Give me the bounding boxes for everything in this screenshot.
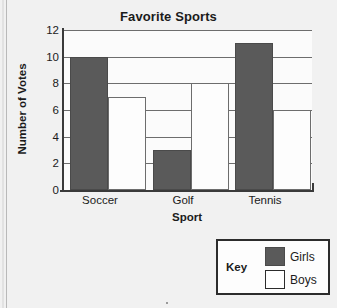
legend-label-boys: Boys — [290, 273, 317, 287]
y-tick-label-2: 2 — [33, 157, 59, 169]
y-tick-label-4: 4 — [33, 131, 59, 143]
bar-tennis-girls — [235, 43, 273, 190]
legend-title: Key — [226, 261, 247, 273]
legend-swatch-boys-icon — [265, 270, 285, 289]
page-edge-shadow — [2, 0, 4, 308]
legend-entry-boys: Boys — [265, 270, 317, 289]
legend-swatch-girls-icon — [265, 247, 285, 266]
x-axis-endcap — [312, 183, 314, 191]
bar-tennis-boys — [273, 110, 311, 190]
legend-key-box: Key Girls Boys — [216, 239, 330, 295]
legend-entry-girls: Girls — [265, 247, 315, 266]
y-tick-label-10: 10 — [33, 51, 59, 63]
y-tick-label-6: 6 — [33, 104, 59, 116]
x-tick-label-golf: Golf — [143, 194, 223, 206]
bar-golf-girls — [153, 150, 191, 190]
y-axis-line — [62, 28, 64, 192]
y-axis-title: Number of Votes — [16, 44, 28, 174]
bar-golf-boys — [191, 83, 229, 190]
y-tick-label-12: 12 — [33, 24, 59, 36]
x-tick-label-soccer: Soccer — [60, 194, 140, 206]
chart-title: Favorite Sports — [0, 9, 337, 24]
gridline-12 — [62, 30, 312, 31]
bar-soccer-girls — [70, 57, 108, 190]
bar-soccer-boys — [108, 97, 146, 190]
x-axis-title: Sport — [62, 211, 312, 223]
plot-area — [62, 30, 312, 190]
scan-speck — [166, 302, 168, 304]
y-tick-label-8: 8 — [33, 77, 59, 89]
legend-label-girls: Girls — [290, 250, 315, 264]
x-tick-label-tennis: Tennis — [225, 194, 305, 206]
page-edge-rule — [6, 0, 7, 308]
x-axis-line — [60, 190, 314, 192]
y-tick-label-0: 0 — [33, 184, 59, 196]
chart-page: Favorite Sports Number of Votes 12 10 8 … — [0, 0, 337, 308]
